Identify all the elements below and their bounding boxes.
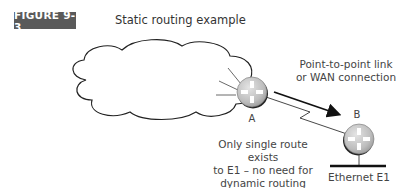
router-b-label: B	[351, 108, 363, 121]
router-b	[343, 124, 374, 156]
link-annotation-line1: Point-to-point link	[286, 58, 406, 71]
link-annotation-line2: or WAN connection	[286, 71, 406, 84]
note-annotation: Only single route exists to E1 – no need…	[208, 138, 318, 188]
router-a-label: A	[246, 112, 258, 125]
link-annotation: Point-to-point link or WAN connection	[286, 58, 406, 84]
serial-link	[263, 96, 347, 134]
note-annotation-line2: to E1 – no need for	[208, 164, 318, 177]
note-annotation-line3: dynamic routing	[208, 177, 318, 188]
note-annotation-line1: Only single route exists	[208, 138, 318, 164]
network-cloud	[73, 40, 254, 120]
ethernet-label: Ethernet E1	[326, 171, 392, 184]
diagram-canvas	[0, 0, 408, 188]
ethernet-segment	[330, 154, 386, 166]
